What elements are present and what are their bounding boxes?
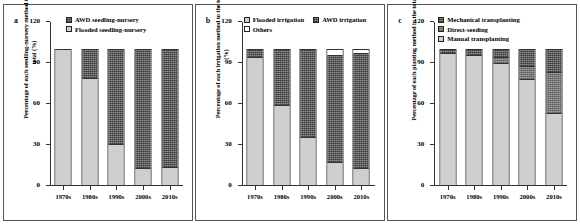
- x-axis-tick: [116, 186, 117, 190]
- y-axis-tick-label: 60: [33, 99, 40, 107]
- x-axis-tick-label: 1970s: [50, 193, 77, 200]
- x-axis-tick: [335, 186, 336, 190]
- bar-segment: [354, 54, 369, 168]
- bar-segment: [162, 50, 177, 167]
- x-axis-tick-label: 2010s: [156, 193, 183, 200]
- bar-slot: [514, 22, 541, 186]
- x-axis-tick-label: 1980s: [268, 193, 295, 200]
- x-axis-tick-label: 1990s: [488, 193, 515, 200]
- x-axis-tick: [63, 186, 64, 190]
- bar-group: [50, 22, 183, 186]
- figure-stacked-bar-panels: aPercentage of each seedling-nursery met…: [0, 0, 580, 224]
- bar-segment: [440, 54, 455, 185]
- x-axis-tick-label: 1990s: [103, 193, 130, 200]
- bar-segment: [274, 50, 289, 105]
- x-axis-tick-label: 1970s: [242, 193, 269, 200]
- bar-slot: [295, 22, 322, 186]
- bar-segment: [354, 169, 369, 185]
- bar-segment: [493, 50, 508, 58]
- bar-segment: [547, 114, 562, 185]
- x-axis-tick: [170, 186, 171, 190]
- bar-slot: [103, 22, 130, 186]
- y-axis-tick-label: 90: [417, 58, 424, 66]
- panel-letter: a: [14, 16, 18, 25]
- bar-slot: [461, 22, 488, 186]
- x-axis-tick: [143, 186, 144, 190]
- bar-segment: [327, 163, 342, 185]
- x-axis-tick-label: 2000s: [514, 193, 541, 200]
- bar-slot: [77, 22, 104, 186]
- panel-letter: b: [206, 16, 210, 25]
- bar-segment: [109, 50, 124, 144]
- bar-segment: [520, 50, 535, 66]
- y-axis-tick-label: 90: [33, 58, 40, 66]
- x-axis-tick-label: 1980s: [461, 193, 488, 200]
- stacked-bar: [353, 49, 370, 186]
- bar-segment: [301, 50, 316, 138]
- bar-slot: [488, 22, 515, 186]
- x-axis-tick: [501, 186, 502, 190]
- x-axis-tick-label: 2000s: [321, 193, 348, 200]
- x-axis-tick: [448, 186, 449, 190]
- plot-area: 03060901201970s1980s1990s2000s2010s: [242, 22, 375, 186]
- x-axis-tick: [90, 186, 91, 190]
- x-axis-tick: [527, 186, 528, 190]
- bar-segment: [247, 58, 262, 185]
- y-axis-tick-label: 120: [30, 17, 41, 25]
- bar-segment: [547, 73, 562, 113]
- panel-a: aPercentage of each seedling-nursery met…: [3, 4, 193, 221]
- x-axis-tick-label: 1970s: [434, 193, 461, 200]
- bar-group: [434, 22, 567, 186]
- x-axis-tick: [361, 186, 362, 190]
- bar-segment: [82, 79, 97, 185]
- stacked-bar: [326, 49, 343, 186]
- y-axis-tick-label: 0: [37, 181, 41, 189]
- stacked-bar: [108, 49, 125, 186]
- bar-slot: [242, 22, 269, 186]
- bar-segment: [136, 169, 151, 185]
- panel-c: cPercentage of each planting method in t…: [387, 4, 577, 221]
- bar-group: [242, 22, 375, 186]
- x-axis-tick: [282, 186, 283, 190]
- bar-segment: [274, 106, 289, 185]
- stacked-bar: [273, 49, 290, 186]
- bar-slot: [541, 22, 568, 186]
- bar-segment: [520, 80, 535, 185]
- bar-slot: [130, 22, 157, 186]
- x-axis-tick-label: 1990s: [295, 193, 322, 200]
- bar-slot: [156, 22, 183, 186]
- y-axis-tick-label: 30: [417, 140, 424, 148]
- x-axis-tick-label: 1980s: [77, 193, 104, 200]
- x-axis-tick-label: 2000s: [130, 193, 157, 200]
- stacked-bar: [466, 49, 483, 186]
- panel-b: bPercentage of each irrigation method to…: [195, 4, 386, 221]
- y-axis-tick-label: 120: [414, 17, 425, 25]
- y-axis-tick-label: 60: [225, 99, 232, 107]
- x-axis-tick: [554, 186, 555, 190]
- bar-segment: [327, 56, 342, 164]
- stacked-bar: [81, 49, 98, 186]
- x-axis-tick: [474, 186, 475, 190]
- panel-letter: c: [398, 16, 402, 25]
- stacked-bar: [439, 49, 456, 186]
- bar-segment: [520, 67, 535, 80]
- bar-segment: [467, 56, 482, 185]
- bar-slot: [50, 22, 77, 186]
- stacked-bar: [161, 49, 178, 186]
- x-axis-tick-label: 2010s: [348, 193, 375, 200]
- bar-slot: [434, 22, 461, 186]
- bar-slot: [268, 22, 295, 186]
- stacked-bar: [300, 49, 317, 186]
- stacked-bar: [492, 49, 509, 186]
- bar-segment: [162, 168, 177, 186]
- stacked-bar: [519, 49, 536, 186]
- bar-segment: [82, 50, 97, 78]
- x-axis-labels: 1970s1980s1990s2000s2010s: [50, 193, 183, 200]
- y-axis-tick-label: 0: [228, 181, 232, 189]
- stacked-bar: [546, 49, 563, 186]
- plot-area: 03060901201970s1980s1990s2000s2010s: [434, 22, 567, 186]
- x-axis-tick: [255, 186, 256, 190]
- y-axis-tick-label: 60: [417, 99, 424, 107]
- x-axis-labels: 1970s1980s1990s2000s2010s: [434, 193, 567, 200]
- bar-segment: [301, 138, 316, 185]
